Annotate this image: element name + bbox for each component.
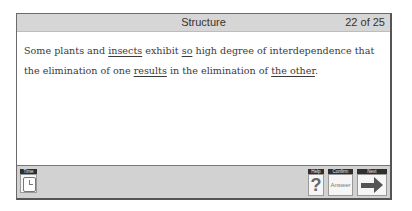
underlined-option-a[interactable]: insects (108, 45, 142, 56)
question-area: Some plants and insects exhibit so high … (17, 32, 390, 168)
time-button[interactable]: Time (20, 169, 37, 193)
clock-icon (23, 177, 36, 192)
help-button[interactable]: Help ? (308, 169, 324, 196)
question-counter: 22 of 25 (345, 16, 385, 28)
question-text-2: exhibit (142, 45, 182, 56)
section-title: Structure (17, 16, 390, 28)
title-bar: Structure 22 of 25 (17, 14, 390, 32)
question-text-4: in the elimination of (167, 65, 271, 76)
next-button[interactable]: Next (357, 169, 387, 196)
question-text-1: Some plants and (24, 45, 108, 56)
bottom-toolbar: Time Help ? Confirm Answer Next (17, 165, 390, 198)
underlined-option-d[interactable]: the other (271, 65, 315, 76)
time-face (20, 174, 37, 193)
confirm-answer-button[interactable]: Confirm Answer (328, 169, 353, 196)
arrow-right-icon (357, 174, 387, 196)
test-window: Structure 22 of 25 Some plants and insec… (16, 13, 392, 200)
question-mark-icon: ? (308, 174, 324, 196)
underlined-option-b[interactable]: so (182, 45, 193, 56)
answer-text: Answer (328, 174, 353, 196)
underlined-option-c[interactable]: results (134, 65, 167, 76)
question-text-5: . (315, 65, 318, 76)
